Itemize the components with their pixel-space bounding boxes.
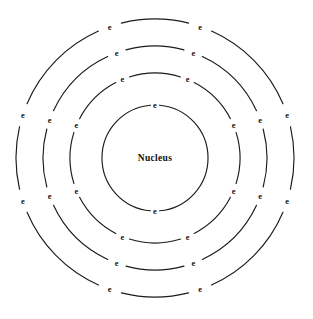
orbit-2-arc [129, 239, 180, 243]
electron-label-shell1-1: e [153, 100, 157, 110]
orbit-2-arc [194, 83, 230, 119]
orbit-2-arc [129, 73, 180, 77]
orbit-3-arc [53, 205, 107, 259]
orbit-4-arc [290, 127, 294, 190]
electron-label-shell4-7: e [21, 110, 25, 120]
electron-label-shell3-4: e [191, 258, 195, 268]
orbit-2-arc [70, 132, 74, 183]
electron-label-shell2-1: e [186, 74, 190, 84]
electron-label-shell3-3: e [258, 191, 262, 201]
electron-label-shell4-2: e [285, 110, 289, 120]
orbit-2-arc [80, 83, 116, 119]
electron-label-shell3-8: e [115, 48, 119, 58]
electron-label-shell4-8: e [108, 22, 112, 32]
electron-label-shell2-2: e [232, 120, 236, 130]
electron-label-shell3-6: e [48, 191, 52, 201]
orbit-3-arc [263, 129, 267, 187]
orbit-4-arc [121, 19, 188, 23]
orbit-4-arc [212, 31, 283, 104]
orbit-4-arc [121, 293, 188, 297]
electron-label-shell3-2: e [258, 115, 262, 125]
orbit-4-arc [212, 212, 283, 285]
orbit-4-arc [27, 212, 98, 285]
electron-label-shell3-1: e [191, 48, 195, 58]
electron-label-shell2-5: e [121, 232, 125, 242]
electron-label-shell3-7: e [48, 115, 52, 125]
bohr-model-diagram: eeeeeeeeeeeeeeeeeeeeeeeeee Nucleus [0, 0, 313, 319]
orbit-3-arc [126, 46, 184, 50]
orbit-3-arc [126, 266, 184, 270]
orbit-4-arc [27, 31, 98, 104]
orbit-4-arc [16, 127, 20, 190]
electron-label-shell2-3: e [232, 186, 236, 196]
orbit-2-arc [194, 197, 230, 233]
atom-diagram-canvas: eeeeeeeeeeeeeeeeeeeeeeeeee Nucleus [0, 0, 313, 319]
electron-label-shell4-6: e [21, 196, 25, 206]
orbit-3-arc [202, 56, 256, 110]
orbit-2-arc [236, 132, 240, 183]
electron-label-shell3-5: e [115, 258, 119, 268]
electron-label-shell1-2: e [153, 206, 157, 216]
orbit-2-arc [80, 197, 116, 233]
electron-label-shell4-3: e [285, 196, 289, 206]
electron-label-shell2-8: e [121, 74, 125, 84]
electron-label-shell4-1: e [198, 22, 202, 32]
electron-label-shell2-6: e [75, 186, 79, 196]
electron-label-shell4-5: e [108, 284, 112, 294]
orbit-3-arc [53, 56, 107, 110]
electron-label-shell2-4: e [186, 232, 190, 242]
orbit-3-arc [202, 205, 256, 259]
electron-label-shell2-7: e [75, 120, 79, 130]
electron-label-shell4-4: e [198, 284, 202, 294]
orbit-3-arc [43, 129, 47, 187]
nucleus-label: Nucleus [138, 153, 172, 163]
